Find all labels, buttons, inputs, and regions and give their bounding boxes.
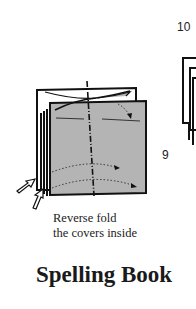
step-9-book-illustration bbox=[17, 81, 146, 209]
instruction-caption: Reverse fold the covers inside bbox=[53, 211, 137, 241]
step-10-book-illustration bbox=[183, 58, 196, 145]
instruction-line-2: the covers inside bbox=[53, 226, 137, 241]
page-title: Spelling Book bbox=[36, 262, 172, 288]
instruction-line-1: Reverse fold bbox=[53, 211, 137, 226]
